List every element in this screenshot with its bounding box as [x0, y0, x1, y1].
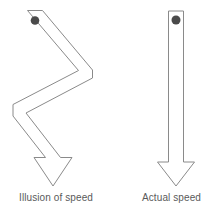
illusion-of-speed-arrow-group	[13, 11, 93, 187]
diagram-canvas: Illusion of speed Actual speed	[0, 0, 223, 212]
speed-comparison-diagram	[0, 0, 223, 212]
straight-downward-arrow-icon	[158, 11, 195, 186]
zigzag-downward-arrow-icon	[13, 11, 93, 187]
start-point-dot-icon	[172, 16, 181, 25]
caption-illusion-of-speed: Illusion of speed	[0, 192, 112, 204]
actual-speed-arrow-group	[158, 11, 195, 186]
start-point-dot-icon	[31, 16, 40, 25]
caption-actual-speed: Actual speed	[120, 192, 223, 204]
